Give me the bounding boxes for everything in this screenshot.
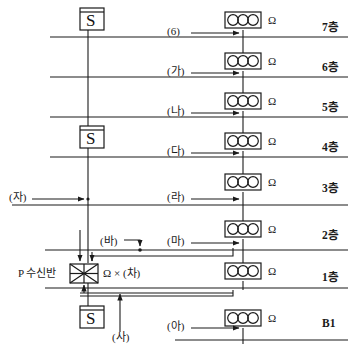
tag-ja: (자) (9, 192, 26, 203)
tag-na: (나) (167, 106, 184, 117)
detector-letter-bottom: S (86, 310, 95, 327)
tag-ra: (라) (167, 192, 184, 203)
floor-label-7f: 7층 (322, 22, 339, 34)
detector-letter-mid: S (86, 130, 95, 147)
tag-ma: (마) (167, 236, 184, 247)
ohm-label-b1: Ω (268, 313, 276, 324)
floor-label-2f: 2층 (322, 230, 339, 242)
bell-box-6f (225, 53, 261, 69)
tag-ah: (아) (167, 321, 184, 332)
floor-lines (12, 37, 348, 340)
ohm-label-2f: Ω (268, 224, 276, 235)
diagram-canvas (0, 0, 353, 349)
tag-cha: Ω × (차) (103, 268, 140, 279)
bell-box-3f (225, 174, 261, 190)
floor-label-b1: B1 (322, 318, 335, 330)
junction-3f (86, 197, 89, 200)
detector-letter-top: S (86, 12, 95, 29)
floor-label-6f: 6층 (322, 62, 339, 74)
bell-box-2f (225, 221, 261, 237)
floor-label-3f: 3층 (322, 183, 339, 195)
ohm-label-1f: Ω (268, 266, 276, 277)
arrow-tag-ba (124, 240, 140, 246)
ohm-label-7f: Ω (268, 15, 276, 26)
floor-label-4f: 4층 (322, 142, 339, 154)
receiver-panel-symbol (70, 264, 98, 283)
receiver-panel-label: P 수신반 (18, 268, 56, 279)
tag-leader-arrows (32, 33, 239, 332)
tag-da: (다) (167, 146, 184, 157)
bell-box-4f (225, 133, 261, 149)
ohm-label-3f: Ω (268, 177, 276, 188)
tag-6: (6) (167, 26, 180, 37)
bell-box-7f (225, 12, 261, 28)
ohm-label-6f: Ω (268, 56, 276, 67)
ohm-label-5f: Ω (268, 96, 276, 107)
fire-alarm-riser-diagram: S S S Ω Ω Ω Ω Ω Ω Ω Ω 7층 6층 5층 4층 3층 2층 … (0, 0, 353, 349)
tag-ba: (바) (100, 236, 117, 247)
junction-ba (138, 248, 142, 252)
tag-sa: (사) (112, 332, 129, 343)
bell-box-1f (225, 263, 261, 279)
bell-box-b1 (225, 310, 261, 326)
floor-label-5f: 5층 (322, 102, 339, 114)
ohm-label-4f: Ω (268, 136, 276, 147)
bell-box-5f (225, 93, 261, 109)
tag-ga: (가) (167, 66, 184, 77)
floor-label-1f: 1층 (322, 272, 339, 284)
